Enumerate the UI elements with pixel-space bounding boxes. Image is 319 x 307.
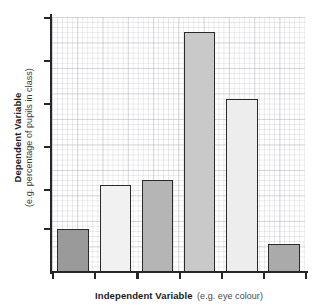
y-tick-5 <box>44 189 51 191</box>
x-tick-1 <box>52 272 54 279</box>
x-axis-title: Independent Variable (e.g. eye colour) <box>46 285 312 303</box>
y-axis-title: Dependent Variable (e.g. percentage of p… <box>0 0 46 275</box>
x-axis-title-bold: Independent Variable <box>95 290 193 301</box>
bar-5 <box>226 99 258 272</box>
bar-3 <box>142 180 174 272</box>
y-tick-2 <box>44 60 51 62</box>
x-tick-7 <box>305 272 307 279</box>
y-tick-3 <box>44 103 51 105</box>
bar-2 <box>100 185 132 272</box>
bar-6 <box>268 244 300 272</box>
x-tick-3 <box>136 272 138 279</box>
x-tick-2 <box>94 272 96 279</box>
y-tick-4 <box>44 146 51 148</box>
bar-4 <box>184 32 216 272</box>
y-axis-title-rotated: Dependent Variable (e.g. percentage of p… <box>11 68 34 207</box>
x-axis-title-plain: (e.g. eye colour) <box>197 291 263 301</box>
y-axis-title-bold: Dependent Variable <box>11 68 23 207</box>
bar-series <box>52 17 305 272</box>
x-tick-5 <box>221 272 223 279</box>
y-axis-title-plain: (e.g. percentage of pupils in class) <box>23 68 34 207</box>
x-tick-4 <box>179 272 181 279</box>
plot-area <box>52 17 305 272</box>
bar-chart-figure: Dependent Variable (e.g. percentage of p… <box>0 0 319 307</box>
y-tick-6 <box>44 228 51 230</box>
x-tick-6 <box>263 272 265 279</box>
bar-1 <box>57 229 89 272</box>
y-axis-line <box>50 14 52 274</box>
y-tick-1 <box>44 17 51 19</box>
